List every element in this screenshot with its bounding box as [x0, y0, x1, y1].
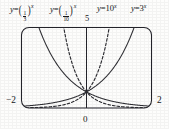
plot-area	[0, 0, 169, 129]
curve-y-10-x	[22, 21, 121, 108]
curve-y-1-10-x	[53, 21, 152, 108]
exponential-functions-figure: y=(13)x y=(110)x y=10x y=3x 5 −2 0 2	[0, 0, 169, 129]
